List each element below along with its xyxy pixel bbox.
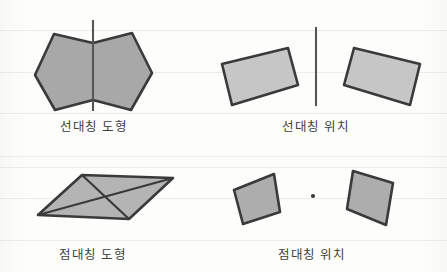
caption-line-symmetric-figure: 선대칭 도형 xyxy=(60,116,128,135)
caption-line-symmetric-position: 선대칭 위치 xyxy=(282,116,350,135)
quadrilateral-shape-right xyxy=(344,48,420,105)
quadrilateral-shape-left xyxy=(222,48,298,105)
caption-point-symmetric-figure: 점대칭 도형 xyxy=(59,244,127,263)
panel-point-symmetric-position xyxy=(234,171,393,225)
quadrilateral-shape-left xyxy=(234,174,280,224)
panel-line-symmetric-position xyxy=(222,27,420,106)
symmetry-center-point xyxy=(311,194,315,198)
panel-line-symmetric-figure xyxy=(35,20,152,111)
figures-canvas xyxy=(0,0,447,272)
panel-point-symmetric-figure xyxy=(38,175,173,219)
quadrilateral-shape-right xyxy=(347,171,393,225)
worksheet-page: 선대칭 도형 선대칭 위치 점대칭 도형 점대칭 위치 xyxy=(0,0,447,272)
caption-point-symmetric-position: 점대칭 위치 xyxy=(278,244,346,263)
